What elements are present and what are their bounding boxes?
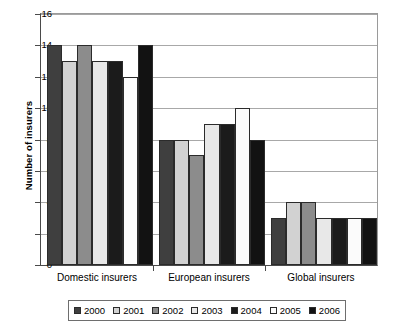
y-tick-mark xyxy=(35,77,40,78)
bar xyxy=(204,124,219,265)
y-tick-mark xyxy=(35,234,40,235)
bar xyxy=(286,202,301,265)
bar xyxy=(92,61,107,265)
bar xyxy=(159,140,174,266)
y-tick-mark xyxy=(35,202,40,203)
bar xyxy=(347,218,362,265)
y-tick-mark xyxy=(35,265,40,266)
legend-item[interactable]: 2002 xyxy=(152,306,183,316)
x-axis-group-tick xyxy=(153,266,154,271)
bar xyxy=(47,45,62,265)
legend-swatch-icon xyxy=(231,307,238,314)
bar xyxy=(189,155,204,265)
x-category-label: Global insurers xyxy=(241,272,397,283)
y-tick-mark xyxy=(35,45,40,46)
bar xyxy=(250,140,265,266)
bar xyxy=(332,218,347,265)
y-tick-mark xyxy=(35,140,40,141)
legend-label: 2000 xyxy=(84,306,105,316)
y-tick-mark xyxy=(35,171,40,172)
bars-layer xyxy=(41,14,377,265)
legend-swatch-icon xyxy=(191,307,198,314)
bar xyxy=(138,45,153,265)
bar xyxy=(77,45,92,265)
legend-item[interactable]: 2000 xyxy=(74,306,105,316)
legend-label: 2006 xyxy=(319,306,340,316)
bar-chart: Number of insurers 0246810121416 Domesti… xyxy=(0,0,397,330)
bar xyxy=(220,124,235,265)
legend-item[interactable]: 2005 xyxy=(270,306,301,316)
bar xyxy=(301,202,316,265)
legend-swatch-icon xyxy=(309,307,316,314)
y-tick-mark xyxy=(35,14,40,15)
bar xyxy=(174,140,189,266)
legend-label: 2004 xyxy=(241,306,262,316)
legend-item[interactable]: 2006 xyxy=(309,306,340,316)
bar xyxy=(316,218,331,265)
legend-label: 2002 xyxy=(162,306,183,316)
bar xyxy=(108,61,123,265)
bar xyxy=(362,218,377,265)
bar xyxy=(62,61,77,265)
legend-swatch-icon xyxy=(152,307,159,314)
legend-label: 2005 xyxy=(280,306,301,316)
bar xyxy=(123,77,138,265)
legend-item[interactable]: 2001 xyxy=(113,306,144,316)
legend-label: 2001 xyxy=(123,306,144,316)
y-tick-mark xyxy=(35,108,40,109)
legend: 2000200120022003200420052006 xyxy=(68,300,346,321)
bar xyxy=(271,218,286,265)
x-axis-group-tick xyxy=(265,266,266,271)
legend-swatch-icon xyxy=(74,307,81,314)
legend-swatch-icon xyxy=(270,307,277,314)
legend-swatch-icon xyxy=(113,307,120,314)
legend-label: 2003 xyxy=(201,306,222,316)
legend-item[interactable]: 2004 xyxy=(231,306,262,316)
legend-item[interactable]: 2003 xyxy=(191,306,222,316)
bar xyxy=(235,108,250,265)
